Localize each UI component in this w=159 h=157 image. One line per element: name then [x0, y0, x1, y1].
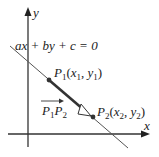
vector-arrowhead-icon	[78, 104, 91, 116]
point-p2	[91, 115, 96, 120]
line-equation-label: ax + by + c = 0	[15, 39, 98, 52]
point-p1-label: P1(x1, y1)	[54, 66, 102, 82]
point-p2-label: P2(x2, y2)	[97, 105, 145, 121]
y-axis-label: y	[33, 6, 39, 19]
point-p1	[47, 78, 52, 83]
y-axis-arrow-icon	[25, 7, 32, 16]
vector-label: P1P2	[42, 104, 67, 120]
